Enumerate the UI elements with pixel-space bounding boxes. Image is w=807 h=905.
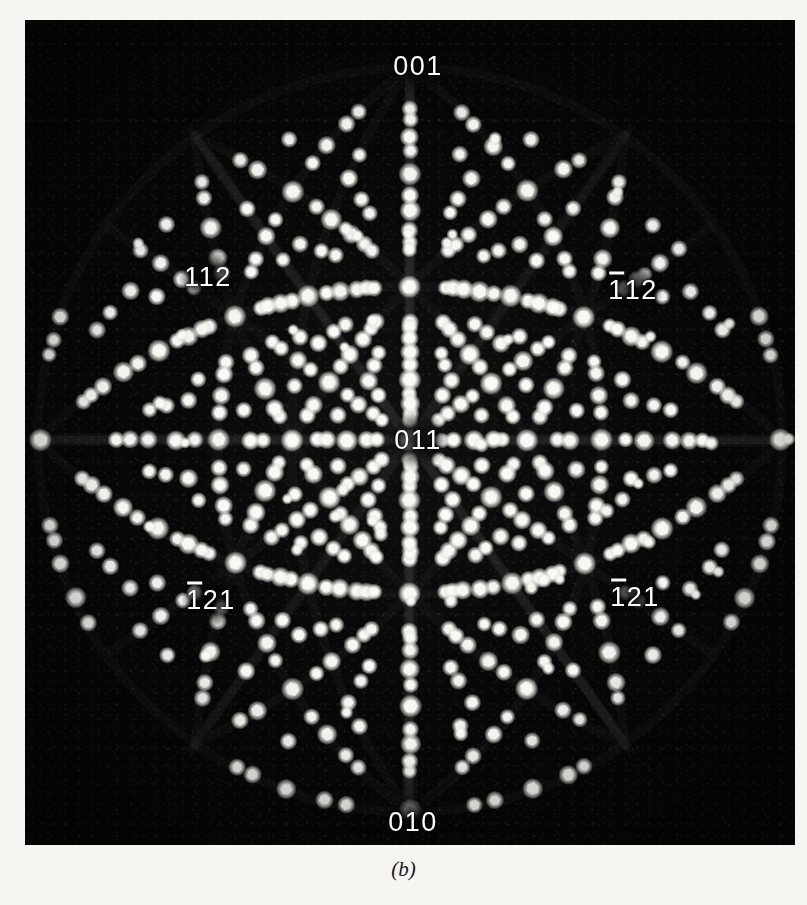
pole-1bar12: 112 [608, 277, 658, 304]
figure-caption: (b) [0, 857, 807, 882]
pole-1bar21-l: 121 [186, 587, 236, 614]
pole-112: 112 [184, 264, 232, 291]
pole-001: 001 [393, 53, 443, 80]
pole-011: 011 [394, 427, 442, 454]
figure-root: 001112112011121121010 (b) [0, 0, 807, 905]
diffraction-plate: 001112112011121121010 [25, 20, 795, 845]
pole-010: 010 [388, 809, 438, 836]
pole-1bar21-r: 121 [610, 584, 660, 611]
